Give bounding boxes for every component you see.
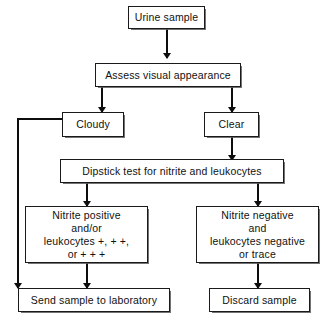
node-urine-sample[interactable]: Urine sample: [128, 6, 205, 29]
node-nitrite-positive-label: Nitrite positive and/or leukocytes +, + …: [26, 209, 147, 261]
node-nitrite-negative-label: Nitrite negative and leukocytes negative…: [197, 209, 318, 261]
node-clear-label: Clear: [205, 118, 258, 131]
node-dipstick-test-label: Dipstick test for nitrite and leukocytes: [61, 165, 283, 178]
node-discard-sample[interactable]: Discard sample: [209, 288, 310, 312]
flowchart-diagram: Urine sample Assess visual appearance Cl…: [0, 0, 324, 318]
node-urine-sample-label: Urine sample: [129, 11, 204, 24]
node-nitrite-positive[interactable]: Nitrite positive and/or leukocytes +, + …: [25, 206, 148, 263]
node-cloudy-label: Cloudy: [63, 118, 123, 131]
connector-cloudy-left-vertical: [17, 118, 19, 288]
node-nitrite-negative[interactable]: Nitrite negative and leukocytes negative…: [196, 206, 319, 263]
node-dipstick-test[interactable]: Dipstick test for nitrite and leukocytes: [60, 159, 284, 183]
node-send-sample-to-laboratory-label: Send sample to laboratory: [19, 294, 169, 307]
node-send-sample-to-laboratory[interactable]: Send sample to laboratory: [18, 288, 170, 312]
node-clear[interactable]: Clear: [204, 112, 259, 137]
node-discard-sample-label: Discard sample: [210, 294, 309, 307]
connector-cloudy-left-horizontal: [17, 118, 62, 120]
node-cloudy[interactable]: Cloudy: [62, 112, 124, 137]
node-assess-visual-appearance[interactable]: Assess visual appearance: [95, 63, 241, 87]
arrowhead-urine-to-assess: [163, 53, 171, 59]
node-assess-visual-appearance-label: Assess visual appearance: [96, 69, 240, 82]
